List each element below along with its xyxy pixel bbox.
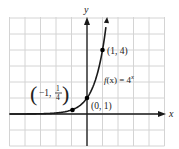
- fraction-denominator: 4: [56, 93, 60, 102]
- function-body: (x) = 4: [107, 75, 132, 85]
- exponential-graph: x y (1, 4) (0, 1) ( −1, 1 4 ) f(x) = 4x: [0, 0, 179, 149]
- label-x-value: −1,: [39, 88, 51, 98]
- fraction-numerator: 1: [56, 84, 60, 93]
- point-neg1-quarter: [70, 108, 75, 113]
- point-1-4: [100, 48, 105, 53]
- right-paren: ): [62, 81, 69, 106]
- svg-text:f(x) = 4x: f(x) = 4x: [104, 73, 134, 85]
- y-axis-label: y: [83, 4, 89, 15]
- point-0-1: [85, 96, 90, 101]
- x-axis-label: x: [168, 108, 174, 119]
- label-point-1-4: (1, 4): [107, 46, 128, 57]
- label-point-0-1: (0, 1): [91, 101, 112, 112]
- function-label: f(x) = 4x: [104, 73, 134, 85]
- function-exponent: x: [130, 73, 134, 80]
- left-paren: (: [30, 81, 37, 106]
- label-point-neg1-quarter: ( −1, 1 4 ): [30, 81, 69, 106]
